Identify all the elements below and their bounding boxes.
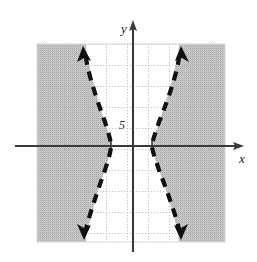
graph-figure: y x 5	[0, 0, 257, 262]
x-axis-label: x	[239, 152, 245, 165]
grid-lines-overlay	[37, 44, 225, 242]
coordinate-plane-svg	[0, 0, 257, 262]
axis-tick-label-5: 5	[119, 119, 125, 131]
y-axis-label: y	[121, 22, 127, 35]
